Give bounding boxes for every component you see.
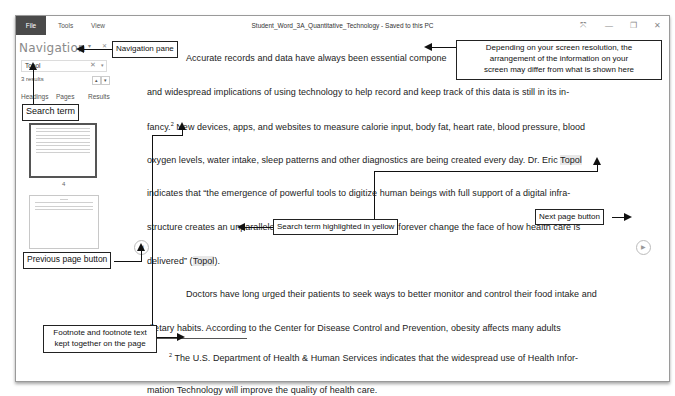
text-line: delivered” (Topol). [147,256,220,266]
footnote-separator [147,338,247,339]
text-line: fancy.2 New devices, apps, and websites … [147,121,585,132]
callout-previous-page: Previous page button [23,252,111,269]
arrow-icon [137,243,145,251]
page-number-4: 4 [62,181,65,187]
close-button[interactable]: ✕ [649,16,665,35]
callout-connector [432,47,456,48]
arrow-icon [76,45,84,53]
callout-navigation-pane: Navigation pane [112,41,178,58]
callout-connector [33,68,34,104]
minimize-button[interactable]: — [601,16,617,35]
tab-pages[interactable]: Pages [56,93,74,100]
previous-result-button[interactable]: ▴ [92,76,101,85]
document-title: Student_Word_3A_Quantitative_Technology … [16,16,669,35]
arrow-icon [177,333,185,341]
callout-resolution-note: Depending on your screen resolution, the… [456,40,662,80]
callout-search-term: Search term [22,104,79,121]
callout-footnote: Footnote and footnote text kept together… [43,325,157,353]
clear-search-icon[interactable]: ✕ [90,61,96,69]
arrow-icon [29,62,37,70]
text-line: oxygen levels, water intake, sleep patte… [147,155,582,165]
close-icon[interactable]: ✕ [102,42,107,49]
tab-results[interactable]: Results [88,93,110,100]
arrow-icon [624,213,632,221]
tab-headings[interactable]: Headings [21,93,48,100]
title-bar: File Tools View Student_Word_3A_Quantita… [16,16,669,35]
document-page: Accurate records and data have always be… [108,35,669,381]
next-page-button[interactable]: ▶ [636,240,651,255]
page-thumbnail-7[interactable] [29,195,99,249]
callout-connector [374,171,375,219]
callout-connector [84,49,112,50]
callout-connector [612,217,624,218]
footnote-text: 2 The U.S. Department of Health & Human … [169,352,578,363]
page-thumbnail-4[interactable] [29,123,97,178]
text-line: Accurate records and data have always be… [186,53,447,63]
chevron-down-icon[interactable]: ▾ [88,42,91,49]
callout-connector [157,337,177,338]
callout-connector [469,171,598,172]
full-screen-icon[interactable]: ⤧ [575,16,591,35]
callout-connector [245,227,273,228]
text-line: and widespread implications of using tec… [147,87,569,97]
footnote-text: mation Technology will improve the quali… [147,385,377,395]
arrow-icon [237,223,245,231]
callout-connector [114,261,141,262]
arrow-icon [178,122,186,130]
text-line: Doctors have long urged their patients t… [186,289,597,299]
search-options-icon[interactable]: ▾ [101,62,104,68]
search-highlight: Topol [560,155,582,165]
arrow-icon [593,157,601,165]
callout-next-page: Next page button [535,209,604,225]
arrow-icon [424,43,432,51]
text-line: dietary habits. According to the Center … [147,323,561,333]
callout-connector [152,135,153,325]
callout-search-highlight: Search term highlighted in yellow [273,219,398,235]
text-line: indicates that “the emergence of powerfu… [147,188,570,198]
callout-connector [152,135,182,136]
callout-connector [141,250,142,262]
callout-connector [374,171,469,172]
search-highlight: Topol [193,256,215,266]
restore-button[interactable]: ❐ [625,16,641,35]
